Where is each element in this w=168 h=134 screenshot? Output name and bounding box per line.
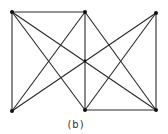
node-tr (154, 11, 158, 15)
node-tl (10, 10, 14, 14)
center-crossing-dot (84, 60, 87, 63)
graph-diagram (0, 0, 168, 134)
node-bl (10, 109, 14, 113)
node-tm (83, 10, 87, 14)
node-br (154, 108, 158, 112)
edge-bl-tr (12, 13, 156, 111)
node-bm (83, 108, 87, 112)
figure-caption: (b) (0, 119, 152, 130)
